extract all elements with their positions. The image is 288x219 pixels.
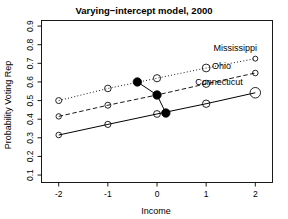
y-axis-title: Probability Voting Rep — [3, 61, 13, 150]
highlight-path-group — [133, 78, 170, 117]
x-axis-ticks: -2-1012 — [55, 183, 258, 199]
chart-container: Varying−intercept model, 2000 -2-1012 0.… — [0, 0, 288, 219]
series-label-connecticut: Connecticut — [195, 77, 243, 87]
data-point-filled-circle — [153, 91, 161, 99]
data-point-open-circle — [105, 85, 112, 92]
data-point-filled-circle — [162, 109, 170, 117]
data-point-open-circle — [153, 75, 160, 82]
series-annotation-labels: MississippiOhioConnecticut — [195, 43, 257, 87]
x-tick-label: -1 — [104, 189, 112, 199]
highlight-connector-line — [137, 82, 166, 113]
y-axis-ticks: 0.10.20.30.40.50.60.70.80.9 — [26, 20, 42, 181]
x-tick-label: -2 — [55, 189, 63, 199]
x-tick-label: 1 — [204, 189, 209, 199]
y-tick-label: 0.2 — [26, 150, 36, 162]
x-tick-label: 2 — [253, 189, 258, 199]
x-tick-label: 0 — [155, 189, 160, 199]
series-label-mississippi: Mississippi — [214, 43, 258, 53]
y-tick-label: 0.7 — [26, 57, 36, 69]
chart-title: Varying−intercept model, 2000 — [75, 5, 212, 16]
y-tick-label: 0.6 — [26, 76, 36, 88]
x-axis-title: Income — [141, 206, 171, 216]
data-point-filled-circle — [133, 78, 141, 86]
series-label-ohio: Ohio — [212, 61, 231, 71]
y-tick-label: 0.9 — [26, 20, 36, 32]
chart-title-group: Varying−intercept model, 2000 — [75, 5, 212, 16]
y-tick-label: 0.1 — [26, 169, 36, 181]
y-tick-label: 0.8 — [26, 39, 36, 51]
y-tick-label: 0.5 — [26, 94, 36, 106]
y-tick-label: 0.3 — [26, 132, 36, 144]
varying-intercept-scatter-line-chart: Varying−intercept model, 2000 -2-1012 0.… — [0, 0, 288, 219]
y-tick-label: 0.4 — [26, 113, 36, 125]
